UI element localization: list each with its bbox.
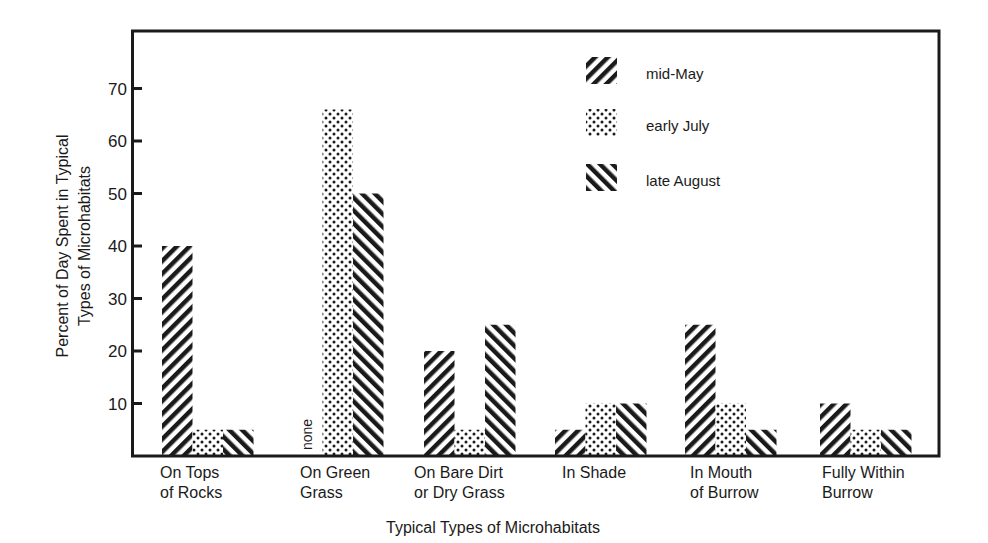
bar-group [424,325,516,456]
y-tick-label: 50 [108,185,127,204]
legend-label: mid-May [646,65,704,82]
legend-swatch [586,109,617,136]
none-annotation: none [299,419,315,450]
x-category-label: or Dry Grass [414,484,505,501]
bar [455,430,486,456]
bar [685,325,716,456]
x-axis-title: Typical Types of Microhabitats [386,519,600,536]
legend-swatch [586,164,617,191]
bar [616,404,647,457]
y-axis: 10203040506070 [108,80,142,414]
legend-label: late August [646,172,721,189]
bar [555,430,586,456]
bar [353,194,384,457]
y-tick-label: 30 [108,290,127,309]
bar-group [555,404,647,457]
x-category-label: Burrow [822,484,873,501]
x-axis-category-labels: On Topsof RocksOn GreenGrassOn Bare Dirt… [160,464,905,501]
y-tick-label: 10 [108,395,127,414]
legend: mid-Mayearly Julylate August [586,57,721,191]
bar [746,430,777,456]
bar [424,351,455,456]
bar [820,404,851,457]
y-tick-label: 60 [108,132,127,151]
bar [193,430,224,456]
bar-group [820,404,912,457]
bar-group [685,325,777,456]
y-axis-title: Percent of Day Spent in Typical Types of… [54,135,93,358]
bars-layer: none [162,110,912,457]
x-category-label: On Bare Dirt [414,464,503,481]
x-category-label: Fully Within [822,464,905,481]
bar-group [162,246,254,456]
x-category-label: On Green [300,464,370,481]
plot-frame [133,31,940,456]
y-axis-title-line-1: Percent of Day Spent in Typical [54,135,71,358]
y-axis-title-line-2: Types of Microhabitats [76,166,93,326]
y-tick-label: 20 [108,342,127,361]
bar [323,110,354,457]
y-tick-label: 70 [108,80,127,99]
x-category-label: On Tops [160,464,219,481]
y-tick-label: 40 [108,237,127,256]
bar-group [323,110,384,457]
chart-canvas: none 10203040506070 On Topsof RocksOn Gr… [0,0,988,543]
x-category-label: In Shade [562,464,626,481]
bar [851,430,882,456]
bar [586,404,617,457]
bar [485,325,516,456]
bar [223,430,254,456]
bar [881,430,912,456]
x-category-label: of Rocks [160,484,222,501]
x-category-label: In Mouth [690,464,752,481]
legend-label: early July [646,117,710,134]
x-category-label: Grass [300,484,343,501]
bar [162,246,193,456]
x-category-label: of Burrow [690,484,759,501]
bar [716,404,747,457]
legend-swatch [586,57,617,84]
